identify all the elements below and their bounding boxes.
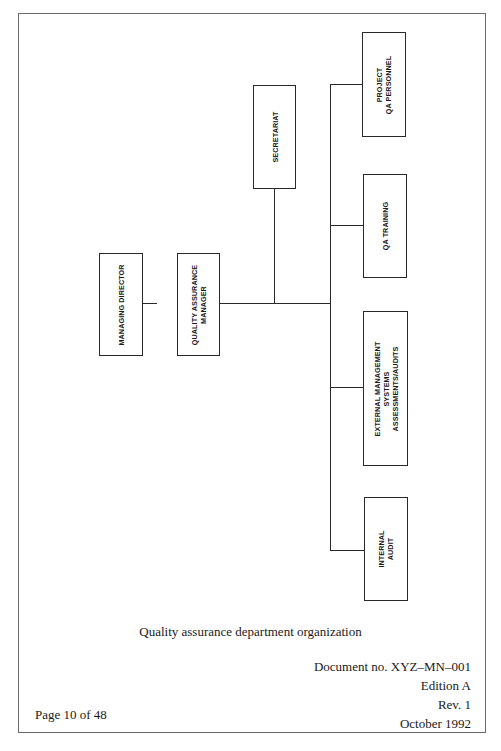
box-project-qa-personnel: PROJECT QA PERSONNEL [362,32,406,137]
connector-to-internal-audit [330,550,365,551]
box-label: SECRETARIAT [270,111,279,162]
document-number: Document no. XYZ–MN–001 [314,657,471,676]
connector-to-project-qa [330,84,363,85]
figure-caption: Quality assurance department organizatio… [0,624,501,640]
box-label: QA TRAINING [381,202,390,250]
box-managing-director: MANAGING DIRECTOR [99,253,143,356]
box-qa-training: QA TRAINING [363,174,407,278]
document-info: Document no. XYZ–MN–001 Edition A Rev. 1… [314,657,471,733]
box-label: QUALITY ASSURANCE MANAGER [190,264,208,344]
connector-secretariat-drop [274,188,275,304]
box-quality-assurance-manager: QUALITY ASSURANCE MANAGER [177,253,220,356]
box-label: EXTERNAL MANAGEMENT SYSTEMS ASSESSMENTS/… [372,341,399,436]
box-label: MANAGING DIRECTOR [117,264,126,345]
edition: Edition A [314,676,471,695]
page-number: Page 10 of 48 [35,707,107,723]
connector-to-qa-training [330,225,364,226]
revision: Rev. 1 [314,695,471,714]
box-external-management-assessments: EXTERNAL MANAGEMENT SYSTEMS ASSESSMENTS/… [363,311,408,466]
box-label: PROJECT QA PERSONNEL [375,55,393,113]
connector-vertical-spine [330,84,331,551]
connector-to-external [330,387,364,388]
box-label: INTERNAL AUDIT [377,530,395,567]
box-internal-audit: INTERNAL AUDIT [364,497,408,601]
box-secretariat: SECRETARIAT [253,85,296,189]
document-date: October 1992 [314,714,471,733]
